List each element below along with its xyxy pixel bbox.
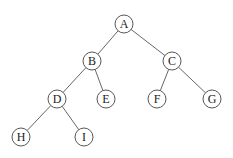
tree-edges: [27, 29, 205, 130]
node-label: E: [102, 92, 109, 106]
tree-node-i: I: [75, 128, 93, 146]
edge-b-e: [95, 69, 103, 90]
edge-a-c: [131, 29, 165, 55]
tree-node-e: E: [97, 90, 115, 108]
node-label: B: [88, 54, 96, 68]
tree-diagram: ABCDEFGHI: [0, 0, 233, 158]
node-label: F: [154, 92, 161, 106]
tree-node-a: A: [115, 15, 133, 33]
edge-a-b: [98, 31, 118, 54]
tree-node-d: D: [48, 90, 66, 108]
tree-node-c: C: [163, 52, 181, 70]
tree-node-f: F: [148, 90, 166, 108]
node-label: I: [82, 130, 86, 144]
edge-d-i: [62, 106, 79, 129]
node-label: C: [168, 54, 176, 68]
edge-b-d: [63, 68, 86, 93]
node-label: G: [208, 92, 217, 106]
node-label: A: [120, 17, 129, 31]
tree-node-b: B: [83, 52, 101, 70]
tree-node-g: G: [203, 90, 221, 108]
node-label: H: [17, 130, 26, 144]
edge-d-h: [27, 106, 51, 131]
tree-node-h: H: [12, 128, 30, 146]
edge-c-f: [160, 69, 168, 90]
edge-c-g: [179, 67, 206, 93]
tree-nodes: ABCDEFGHI: [12, 15, 221, 146]
node-label: D: [53, 92, 62, 106]
